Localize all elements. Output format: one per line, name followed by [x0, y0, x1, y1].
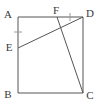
geometry-figure: A B C D E F — [0, 0, 99, 110]
vertex-label-D: D — [86, 7, 94, 19]
segment-ED-line — [18, 17, 83, 48]
vertex-label-B: B — [4, 88, 11, 100]
vertex-label-A: A — [4, 8, 12, 20]
figure-canvas: A B C D E F — [0, 0, 99, 110]
vertex-label-E: E — [6, 41, 13, 53]
segment-FC-line — [57, 17, 83, 93]
vertex-label-F: F — [53, 4, 59, 16]
vertex-label-C: C — [86, 89, 93, 101]
